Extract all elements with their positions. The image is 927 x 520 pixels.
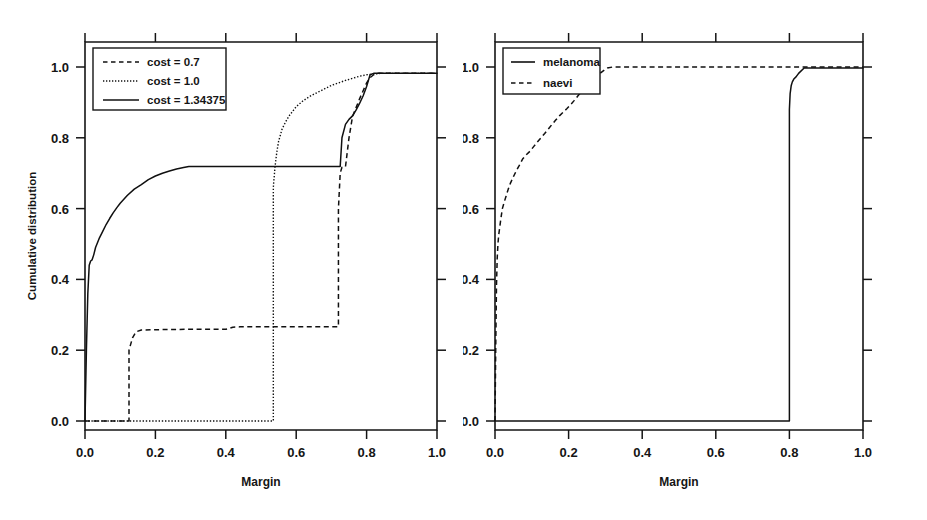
right-plot-area: 0.00.20.40.60.81.0 0.00.20.40.60.81.0 me… — [463, 33, 872, 460]
y-tick-label: 0.6 — [463, 202, 479, 217]
left-top-ticks — [85, 33, 437, 42]
left-y-axis-title: Cumulative distribution — [26, 172, 38, 300]
x-tick-label: 0.0 — [76, 445, 94, 460]
y-tick-label: 0.4 — [51, 272, 70, 287]
right-series-group — [495, 67, 863, 421]
right-y-ticks — [486, 67, 495, 421]
legend-label: naevi — [543, 77, 572, 89]
left-x-ticks — [85, 430, 437, 439]
left-plot-area: 0.00.20.40.60.81.0 0.00.20.40.60.81.0 co… — [51, 33, 446, 460]
left-right-ticks — [437, 67, 446, 421]
x-tick-label: 0.0 — [486, 445, 504, 460]
y-tick-label: 0.0 — [51, 414, 69, 429]
chart-panel-right: 0.00.20.40.60.81.0 0.00.20.40.60.81.0 me… — [463, 0, 927, 520]
legend-label: cost = 1.34375 — [147, 94, 226, 106]
left-y-tick-labels: 0.00.20.40.60.81.0 — [51, 60, 70, 429]
series-curve-melanoma — [495, 68, 863, 421]
y-tick-label: 1.0 — [51, 60, 69, 75]
y-tick-label: 0.6 — [51, 202, 69, 217]
series-curve-cost-0-7 — [85, 73, 437, 421]
legend-label: cost = 0.7 — [147, 56, 200, 68]
left-x-axis-title: Margin — [241, 475, 280, 489]
y-tick-label: 0.8 — [463, 131, 479, 146]
left-series-group — [85, 73, 437, 421]
left-y-ticks — [76, 67, 85, 421]
right-plot-svg: 0.00.20.40.60.81.0 0.00.20.40.60.81.0 me… — [463, 0, 927, 520]
right-right-ticks — [863, 67, 872, 421]
right-plot-frame — [495, 42, 863, 430]
figure-container: 0.00.20.40.60.81.0 0.00.20.40.60.81.0 co… — [0, 0, 927, 520]
right-y-tick-labels: 0.00.20.40.60.81.0 — [463, 60, 480, 429]
left-legend: cost = 0.7cost = 1.0cost = 1.34375 — [93, 48, 226, 110]
y-tick-label: 1.0 — [463, 60, 479, 75]
y-tick-label: 0.4 — [463, 272, 480, 287]
x-tick-label: 0.6 — [287, 445, 305, 460]
chart-panel-left: 0.00.20.40.60.81.0 0.00.20.40.60.81.0 co… — [0, 0, 463, 520]
right-x-ticks — [495, 430, 863, 439]
series-curve-cost-1-34375 — [85, 73, 437, 421]
right-x-axis-title: Margin — [659, 475, 698, 489]
legend-label: melanoma — [543, 56, 600, 68]
series-curve-naevi — [495, 67, 863, 421]
y-tick-label: 0.2 — [463, 343, 479, 358]
y-tick-label: 0.8 — [51, 131, 69, 146]
x-tick-label: 0.4 — [217, 445, 236, 460]
left-x-tick-labels: 0.00.20.40.60.81.0 — [76, 445, 446, 460]
x-tick-label: 1.0 — [428, 445, 446, 460]
x-tick-label: 0.2 — [146, 445, 164, 460]
x-tick-label: 0.8 — [780, 445, 798, 460]
right-top-ticks — [495, 33, 863, 42]
x-tick-label: 1.0 — [854, 445, 872, 460]
x-tick-label: 0.4 — [633, 445, 652, 460]
right-x-tick-labels: 0.00.20.40.60.81.0 — [486, 445, 872, 460]
right-legend: melanomanaevi — [503, 48, 600, 94]
legend-label: cost = 1.0 — [147, 75, 200, 87]
x-tick-label: 0.8 — [358, 445, 376, 460]
x-tick-label: 0.2 — [560, 445, 578, 460]
series-curve-cost-1-0 — [85, 73, 437, 421]
x-tick-label: 0.6 — [707, 445, 725, 460]
left-plot-svg: 0.00.20.40.60.81.0 0.00.20.40.60.81.0 co… — [0, 0, 463, 520]
y-tick-label: 0.2 — [51, 343, 69, 358]
y-tick-label: 0.0 — [463, 414, 479, 429]
